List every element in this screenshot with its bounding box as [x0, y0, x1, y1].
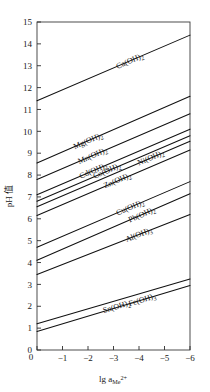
- y-tick-label: 15: [23, 17, 33, 27]
- curve-label-caoh2: Ca(OH)2: [115, 51, 145, 72]
- x-axis-title-text: lg aMe2+: [99, 374, 128, 385]
- curve-aloh3: [37, 214, 190, 274]
- y-tick-label: 5: [28, 236, 33, 246]
- x-axis-title: lg aMe2+: [99, 374, 128, 385]
- curve-caoh2: [37, 35, 190, 101]
- y-tick-label: 3: [28, 280, 33, 290]
- y-axis-ticks: 0123456789101112131415: [23, 17, 41, 355]
- y-tick-label: 11: [23, 105, 32, 115]
- curve-label-aloh3: Al(OH)3: [124, 225, 154, 245]
- x-tick-label: −4: [134, 353, 144, 363]
- curve-labels: Ca(OH)2Mg(OH)2Mn(OH)2Cd(OH)2Co(OH)2Ni(OH…: [72, 51, 166, 316]
- x-tick-label: −3: [109, 353, 119, 363]
- curve-snoh2: [37, 279, 190, 324]
- x-tick-label: 0: [29, 352, 34, 362]
- y-axis-title: pH 值: [3, 185, 14, 207]
- y-tick-label: 10: [23, 127, 33, 137]
- solubility-ph-chart: 0123456789101112131415 0−1−2−3−4−5−6 Ca(…: [0, 0, 210, 392]
- y-tick-label: 4: [28, 258, 33, 268]
- y-tick-label: 1: [28, 323, 33, 333]
- x-axis-ticks: 0−1−2−3−4−5−6: [29, 346, 196, 363]
- curve-nioh2: [37, 141, 190, 207]
- curve-label-feoh3: Fe(OH)3: [128, 292, 158, 310]
- curve-mgoh2: [37, 96, 190, 163]
- y-tick-label: 12: [23, 83, 32, 93]
- curve-label-nioh2: Ni(OH)2: [136, 148, 166, 168]
- y-tick-label: 13: [23, 61, 33, 71]
- x-tick-label: −1: [58, 353, 68, 363]
- x-tick-label: −6: [185, 353, 195, 363]
- y-tick-label: 7: [28, 192, 33, 202]
- y-axis-title-text: pH 值: [3, 185, 14, 207]
- y-tick-label: 2: [28, 301, 33, 311]
- x-tick-label: −5: [160, 353, 170, 363]
- curve-pboh2: [37, 194, 190, 261]
- y-tick-label: 6: [28, 214, 33, 224]
- y-tick-label: 8: [28, 170, 33, 180]
- x-tick-label: −2: [83, 353, 93, 363]
- y-tick-label: 14: [23, 39, 33, 49]
- y-tick-label: 9: [28, 148, 33, 158]
